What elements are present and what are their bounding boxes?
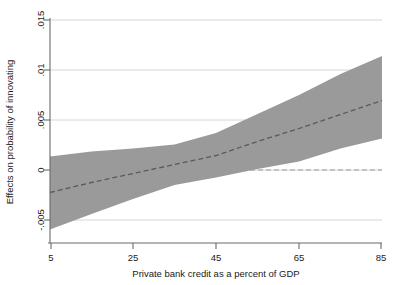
y-tick-label-0: 0 [35, 167, 46, 172]
x-tick-label-5: 5 [48, 252, 53, 263]
y-tick-label-0.005: .005 [35, 111, 46, 130]
chart-canvas: .015 .01 .005 0 -.005 5 25 45 65 85 Priv… [0, 0, 394, 285]
y-tick-label-0.015: .015 [35, 11, 46, 30]
x-axis-title: Private bank credit as a percent of GDP [132, 268, 299, 279]
y-tick-label-minus0.005: -.005 [35, 209, 46, 231]
y-axis-title: Effects on probability of innovating [4, 60, 15, 205]
x-tick-label-25: 25 [128, 252, 139, 263]
x-tick-label-65: 65 [294, 252, 305, 263]
x-tick-label-45: 45 [211, 252, 222, 263]
chart-figure: .015 .01 .005 0 -.005 5 25 45 65 85 Priv… [0, 0, 394, 285]
x-tick-label-85: 85 [376, 252, 387, 263]
y-tick-label-0.01: .01 [35, 63, 46, 76]
